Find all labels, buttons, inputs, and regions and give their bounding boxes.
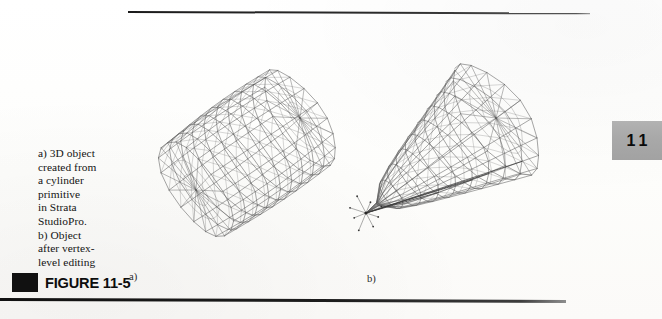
panel-a-sublabel: a) (129, 271, 137, 282)
chapter-thumb-tab: 11 (612, 121, 662, 160)
figure-number-label: FIGURE 11-5 (45, 275, 130, 291)
wireframe-cylinder-a: {} (158, 70, 335, 237)
wireframe-edited-object-b (349, 64, 539, 231)
figure-label-row: FIGURE 11-5 (12, 273, 130, 292)
figure-page: {} a) 3D object created from a cylinder … (0, 0, 662, 319)
figure-marker-square (12, 273, 38, 292)
figure-caption-text: a) 3D object created from a cylinder pri… (38, 147, 124, 269)
chapter-number-label: 11 (623, 132, 652, 150)
top-horizontal-rule (128, 11, 590, 14)
bottom-horizontal-rule (0, 298, 566, 303)
panel-b-sublabel: b) (367, 273, 376, 284)
